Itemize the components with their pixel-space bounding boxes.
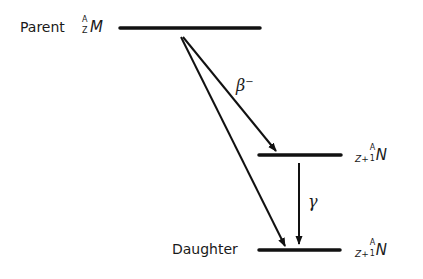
daughter-z-prefix: Z+ [355, 249, 369, 259]
excited-z-prefix: Z+ [355, 154, 369, 164]
daughter-nuclide-indices: A 1 [369, 242, 376, 258]
gamma-label: γ [308, 192, 318, 211]
daughter-symbol: N [376, 241, 387, 259]
beta-minus-label: β− [236, 76, 254, 95]
parent-nuclide-indices: A Z [80, 19, 90, 35]
parent-symbol: M [90, 18, 103, 36]
excited-nuclide: Z+ A 1 N [355, 146, 387, 164]
excited-mass-number: A [370, 143, 375, 152]
parent-label-text: Parent [20, 19, 65, 35]
daughter-atomic-offset: 1 [370, 249, 375, 258]
daughter-label: Daughter [172, 241, 238, 257]
parent-nuclide: A Z M [80, 18, 103, 36]
excited-nuclide-indices: A 1 [369, 147, 376, 163]
parent-mass-number: A [82, 15, 87, 24]
daughter-mass-number: A [370, 238, 375, 247]
gamma-symbol: γ [308, 192, 318, 211]
excited-atomic-offset: 1 [370, 154, 375, 163]
parent-atomic-number: Z [82, 26, 87, 35]
excited-symbol: N [376, 146, 387, 164]
parent-label: Parent [20, 19, 65, 35]
beta-charge: − [245, 76, 253, 87]
daughter-label-text: Daughter [172, 241, 238, 257]
decay-diagram-canvas [0, 0, 423, 279]
daughter-nuclide: Z+ A 1 N [355, 241, 387, 259]
beta-symbol: β [236, 76, 245, 95]
